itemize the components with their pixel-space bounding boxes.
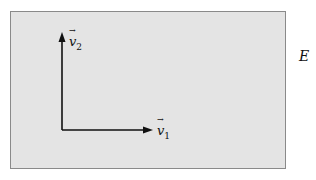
vector-v1-label: v1 bbox=[157, 124, 170, 141]
space-label: E bbox=[299, 49, 309, 63]
vector-v1-arrow bbox=[62, 127, 153, 134]
basis-vectors bbox=[0, 0, 316, 180]
vector-v2-arrow bbox=[59, 32, 66, 130]
vector-v2-label: v2 bbox=[69, 35, 82, 52]
